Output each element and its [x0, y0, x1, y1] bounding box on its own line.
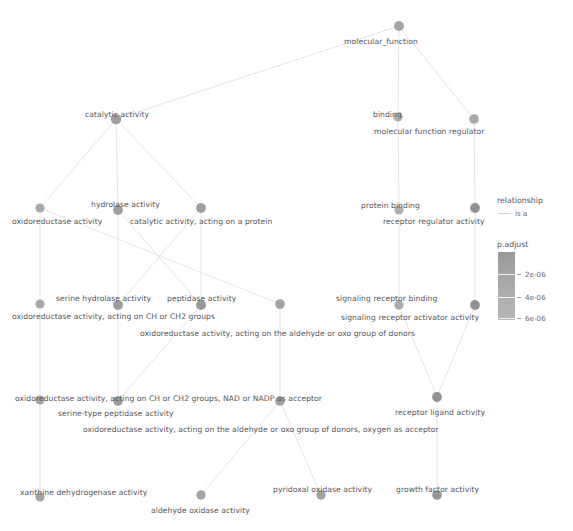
padjust-gradient — [498, 252, 515, 320]
node-label: signaling receptor binding — [336, 294, 437, 303]
padjust-tick-3-label: 6e-06 — [525, 314, 546, 323]
node-label: catalytic activity — [85, 110, 149, 119]
relationship-legend: relationship is a — [497, 196, 573, 219]
graph-node[interactable] — [35, 299, 44, 308]
node-label: protein binding — [361, 201, 420, 210]
graph-edge — [116, 119, 118, 210]
padjust-colorbar: 2e-06 4e-06 6e-06 — [497, 252, 567, 320]
graph-canvas — [0, 0, 573, 531]
node-label: oxidoreductase activity — [12, 217, 102, 226]
node-label: serine hydrolase activity — [56, 294, 151, 303]
padjust-tick-1: 2e-06 — [497, 270, 546, 278]
node-label: aldehyde oxidase activity — [151, 506, 250, 515]
padjust-tick-1-mark — [517, 274, 521, 275]
graph-node[interactable] — [275, 299, 285, 309]
graph-edge — [201, 401, 280, 495]
graph-node[interactable] — [196, 203, 206, 213]
padjust-tick-3-mark — [517, 318, 521, 319]
relationship-legend-title: relationship — [497, 196, 573, 205]
padjust-legend-title: p.adjust — [497, 240, 573, 249]
padjust-tick-2-label: 4e-06 — [525, 293, 546, 302]
padjust-tick-2-mark — [517, 297, 521, 298]
padjust-tick-1-inner — [497, 274, 516, 275]
node-label: signaling receptor activator activity — [341, 313, 479, 322]
graph-node[interactable] — [35, 203, 44, 212]
graph-node[interactable] — [394, 21, 404, 31]
padjust-tick-2: 4e-06 — [497, 293, 546, 301]
node-label: oxidoreductase activity, acting on the a… — [140, 329, 415, 338]
node-label: pyridoxal oxidase activity — [273, 485, 372, 494]
graph-edge — [116, 119, 201, 208]
node-label: receptor ligand activity — [395, 408, 485, 417]
node-label: peptidase activity — [167, 294, 236, 303]
node-label: growth factor activity — [396, 485, 479, 494]
padjust-tick-3-inner — [497, 318, 516, 319]
node-label: serine-type peptidase activity — [58, 409, 174, 418]
node-label: binding — [373, 110, 402, 119]
padjust-legend: p.adjust 2e-06 4e-06 6e-06 — [497, 240, 573, 320]
isa-line-icon — [498, 213, 511, 214]
node-label: xanthine dehydrogenase activity — [20, 488, 147, 497]
go-dag-plot: molecular_functioncatalytic activitybind… — [0, 0, 573, 531]
node-label: molecular_function — [344, 37, 418, 46]
graph-edge — [40, 119, 116, 208]
padjust-tick-1-label: 2e-06 — [525, 270, 546, 279]
node-label: hydrolase activity — [91, 200, 160, 209]
relationship-legend-entry-label: is a — [515, 209, 527, 218]
padjust-tick-3: 6e-06 — [497, 314, 546, 322]
node-label: oxidoreductase activity, acting on CH or… — [12, 312, 215, 321]
graph-edge — [280, 401, 321, 495]
graph-node[interactable] — [469, 114, 479, 124]
graph-node[interactable] — [432, 392, 442, 402]
node-label: catalytic activity, acting on a protein — [130, 217, 272, 226]
node-label: oxidoreductase activity, acting on CH or… — [15, 394, 322, 403]
node-label: molecular function regulator — [374, 127, 484, 136]
graph-node[interactable] — [470, 300, 480, 310]
relationship-legend-entry: is a — [497, 208, 573, 219]
padjust-tick-2-inner — [497, 297, 516, 298]
node-label: oxidoreductase activity, acting on the a… — [83, 425, 439, 434]
graph-node[interactable] — [196, 490, 205, 499]
node-label: receptor regulator activity — [383, 217, 485, 226]
graph-node[interactable] — [470, 203, 480, 213]
